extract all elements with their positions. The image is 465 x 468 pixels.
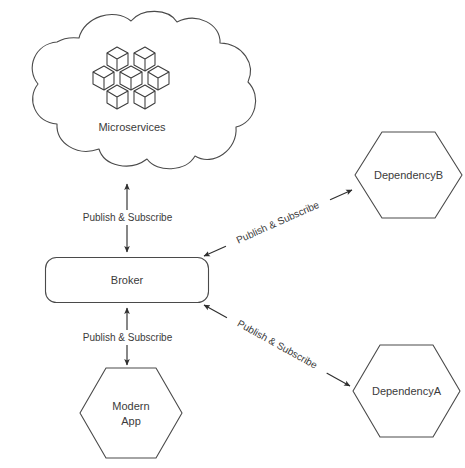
node-dependency-b[interactable]: DependencyB: [355, 132, 462, 218]
node-label-dependency-a: DependencyA: [372, 385, 442, 397]
node-label-modern-app-line2: App: [121, 415, 141, 427]
node-broker[interactable]: Broker: [46, 258, 209, 303]
modern-app-shape: [80, 368, 182, 458]
architecture-diagram: Microservices Broker Modern App Dependen…: [0, 0, 465, 468]
node-label-broker: Broker: [111, 274, 144, 286]
node-label-dependency-b: DependencyB: [374, 169, 443, 181]
edge-label-broker-microservices: Publish & Subscribe: [83, 212, 173, 223]
node-label-microservices: Microservices: [98, 121, 166, 133]
node-label-modern-app-line1: Modern: [112, 400, 149, 412]
edge-broker-dependency-b[interactable]: Publish & Subscribe: [204, 190, 352, 256]
edge-broker-microservices[interactable]: Publish & Subscribe: [69, 184, 186, 252]
diagram-canvas: Microservices Broker Modern App Dependen…: [0, 0, 465, 468]
edge-broker-modern-app[interactable]: Publish & Subscribe: [69, 308, 186, 365]
node-modern-app[interactable]: Modern App: [80, 368, 182, 458]
edge-label-broker-dependency-a: Publish & Subscribe: [236, 318, 320, 371]
edge-broker-dependency-a[interactable]: Publish & Subscribe: [204, 305, 350, 386]
edge-label-broker-dependency-b: Publish & Subscribe: [235, 199, 322, 246]
node-dependency-a[interactable]: DependencyA: [353, 345, 460, 437]
node-microservices[interactable]: Microservices: [32, 11, 255, 168]
edge-label-broker-modern-app: Publish & Subscribe: [83, 332, 173, 343]
